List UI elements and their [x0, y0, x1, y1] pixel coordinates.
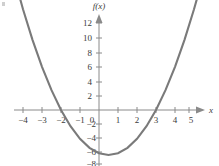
y-tick-label-10: 10 — [83, 33, 93, 43]
x-axis-arrow-icon — [196, 107, 205, 114]
y-tick-label-4: 4 — [88, 77, 93, 87]
y-tick-label-8: 8 — [88, 48, 93, 58]
y-axis-title: f(x) — [93, 1, 106, 11]
x-tick-label--3: −3 — [37, 115, 47, 125]
x-tick-label-5: 5 — [189, 115, 194, 125]
y-tick-label-12: 12 — [83, 18, 92, 28]
y-tick-label-6: 6 — [88, 62, 93, 72]
x-tick-label-3: 3 — [154, 115, 159, 125]
x-axis-title: x — [208, 105, 213, 115]
y-tick-label--2: −2 — [86, 119, 96, 129]
coordinate-plane: −4 −3 −2 −1 1 2 3 4 5 0 12 10 8 6 4 2 −2… — [0, 0, 219, 166]
parabola-graph-figure: −4 −3 −2 −1 1 2 3 4 5 0 12 10 8 6 4 2 −2… — [0, 0, 219, 166]
x-tick-label-4: 4 — [173, 115, 178, 125]
y-tick-label--8: −8 — [86, 159, 96, 166]
x-tick-label-1: 1 — [116, 115, 121, 125]
x-tick-label-2: 2 — [135, 115, 140, 125]
parabola-curve — [15, 0, 201, 155]
x-tick-label--4: −4 — [18, 115, 28, 125]
x-tick-label--1: −1 — [75, 115, 85, 125]
y-tick-label-2: 2 — [88, 91, 93, 101]
y-tick-label--4: −4 — [86, 133, 96, 143]
corner-artifact — [2, 2, 5, 6]
y-axis-arrow-icon — [96, 14, 103, 23]
